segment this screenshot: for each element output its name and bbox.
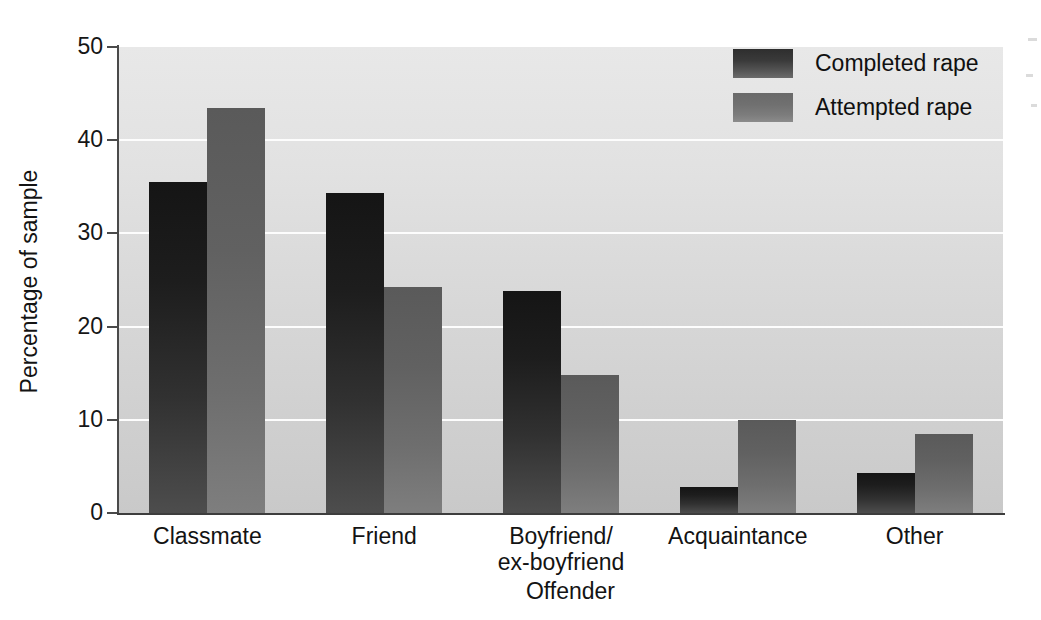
category-label-line: ex-boyfriend	[451, 549, 671, 575]
legend: Completed rape Attempted rape	[733, 47, 995, 135]
y-axis-line	[117, 45, 119, 515]
y-axis-tick-label: 40	[43, 128, 103, 151]
bar-completed-rape	[149, 182, 207, 513]
bar-completed-rape	[326, 193, 384, 513]
bar-attempted-rape	[561, 375, 619, 513]
category-label-line: Other	[805, 523, 1025, 549]
y-axis-tick-label: 30	[43, 221, 103, 244]
y-axis-tick-label: 20	[43, 315, 103, 338]
legend-swatch-attempted-rape	[733, 93, 793, 122]
scan-artifact	[1026, 74, 1033, 77]
legend-item: Attempted rape	[733, 91, 995, 123]
bar-attempted-rape	[738, 420, 796, 513]
y-axis-tick	[107, 139, 117, 141]
legend-swatch-completed-rape	[733, 49, 793, 78]
y-axis-tick	[107, 232, 117, 234]
x-axis-title: Offender	[0, 578, 1041, 605]
y-axis-tick	[107, 46, 117, 48]
y-axis-tick	[107, 326, 117, 328]
bar-completed-rape	[857, 473, 915, 513]
y-axis-tick-label: 10	[43, 408, 103, 431]
scan-artifact	[1028, 38, 1037, 41]
legend-item: Completed rape	[733, 47, 995, 79]
bar-completed-rape	[503, 291, 561, 513]
y-axis-tick-label: 0	[43, 501, 103, 524]
y-axis-title: Percentage of sample	[16, 132, 43, 432]
y-axis-tick-label: 50	[43, 35, 103, 58]
scan-artifact	[1031, 104, 1037, 107]
legend-label: Attempted rape	[815, 94, 972, 121]
bar-attempted-rape	[915, 434, 973, 513]
bar-completed-rape	[680, 487, 738, 513]
y-axis-tick	[107, 419, 117, 421]
x-axis-line	[117, 513, 1005, 515]
legend-label: Completed rape	[815, 50, 979, 77]
x-axis-category-label: Other	[805, 523, 1025, 549]
bar-attempted-rape	[207, 108, 265, 513]
chart-figure: 01020304050 Percentage of sample Classma…	[0, 0, 1041, 620]
y-axis-tick	[107, 512, 117, 514]
bar-attempted-rape	[384, 287, 442, 513]
